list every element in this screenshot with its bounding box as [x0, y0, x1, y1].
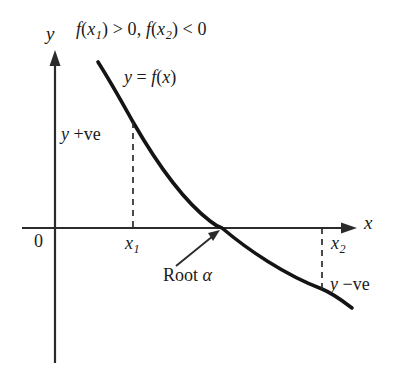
y-positive-label: y +ve — [61, 125, 101, 143]
x-axis-label: x — [364, 213, 372, 232]
y-axis — [50, 50, 61, 363]
root-finding-diagram: f(x1) > 0, f(x2) < 0 y x 0 y = f(x) y +v… — [0, 0, 397, 386]
diagram-canvas — [0, 0, 397, 386]
x-axis-arrowhead — [341, 223, 357, 234]
curve-equation-label: y = f(x) — [124, 68, 176, 86]
x2-label: x2 — [331, 234, 346, 255]
figure-title: f(x1) > 0, f(x2) < 0 — [76, 20, 207, 41]
x1-label: x1 — [125, 234, 140, 255]
y-axis-label: y — [46, 24, 54, 43]
y-axis-arrowhead — [50, 50, 61, 66]
y-negative-label: y −ve — [330, 275, 370, 293]
origin-label: 0 — [34, 232, 43, 250]
root-pointer-arrow — [176, 230, 220, 266]
function-curve — [98, 62, 352, 308]
root-arrow-shaft — [176, 236, 213, 266]
x-axis — [22, 223, 357, 234]
root-label: Root α — [163, 266, 212, 284]
